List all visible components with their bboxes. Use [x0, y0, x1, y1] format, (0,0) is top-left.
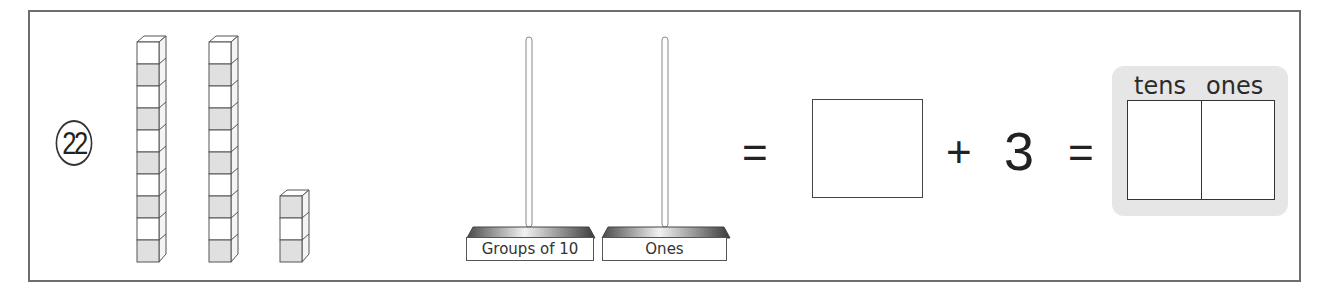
- ones-answer-cell[interactable]: [1201, 101, 1275, 199]
- unit-cubes-icon: [278, 188, 312, 266]
- stand-label-text: Ones: [645, 240, 683, 258]
- ten-rod-2-icon: [207, 34, 241, 266]
- ten-rod-2: [207, 34, 241, 266]
- equals-sign-2: =: [1068, 131, 1094, 175]
- stand-groups-of-10: [465, 34, 597, 239]
- addend-value: 3: [1004, 124, 1034, 178]
- header-tens: tens: [1134, 74, 1186, 98]
- stand-label-text: Groups of 10: [482, 240, 579, 258]
- problem-number: 22: [62, 125, 86, 162]
- place-value-chart: tens ones: [1112, 66, 1288, 216]
- equals-sign-1: =: [742, 131, 768, 175]
- stand-label-ones: Ones: [602, 237, 727, 261]
- stand-ones: [600, 34, 732, 239]
- stand-label-groups-of-10: Groups of 10: [466, 237, 594, 261]
- answer-box-groups[interactable]: [812, 99, 923, 198]
- place-value-grid: [1127, 100, 1275, 200]
- peg-stand-icon: [465, 34, 597, 239]
- header-ones: ones: [1206, 74, 1263, 98]
- tens-answer-cell[interactable]: [1128, 101, 1201, 199]
- ten-rod-1: [135, 34, 169, 266]
- unit-cubes: [278, 188, 312, 266]
- plus-sign: +: [946, 130, 972, 174]
- peg-stand-icon: [600, 34, 732, 239]
- problem-number-badge: 22: [56, 120, 93, 166]
- ten-rod-1-icon: [135, 34, 169, 266]
